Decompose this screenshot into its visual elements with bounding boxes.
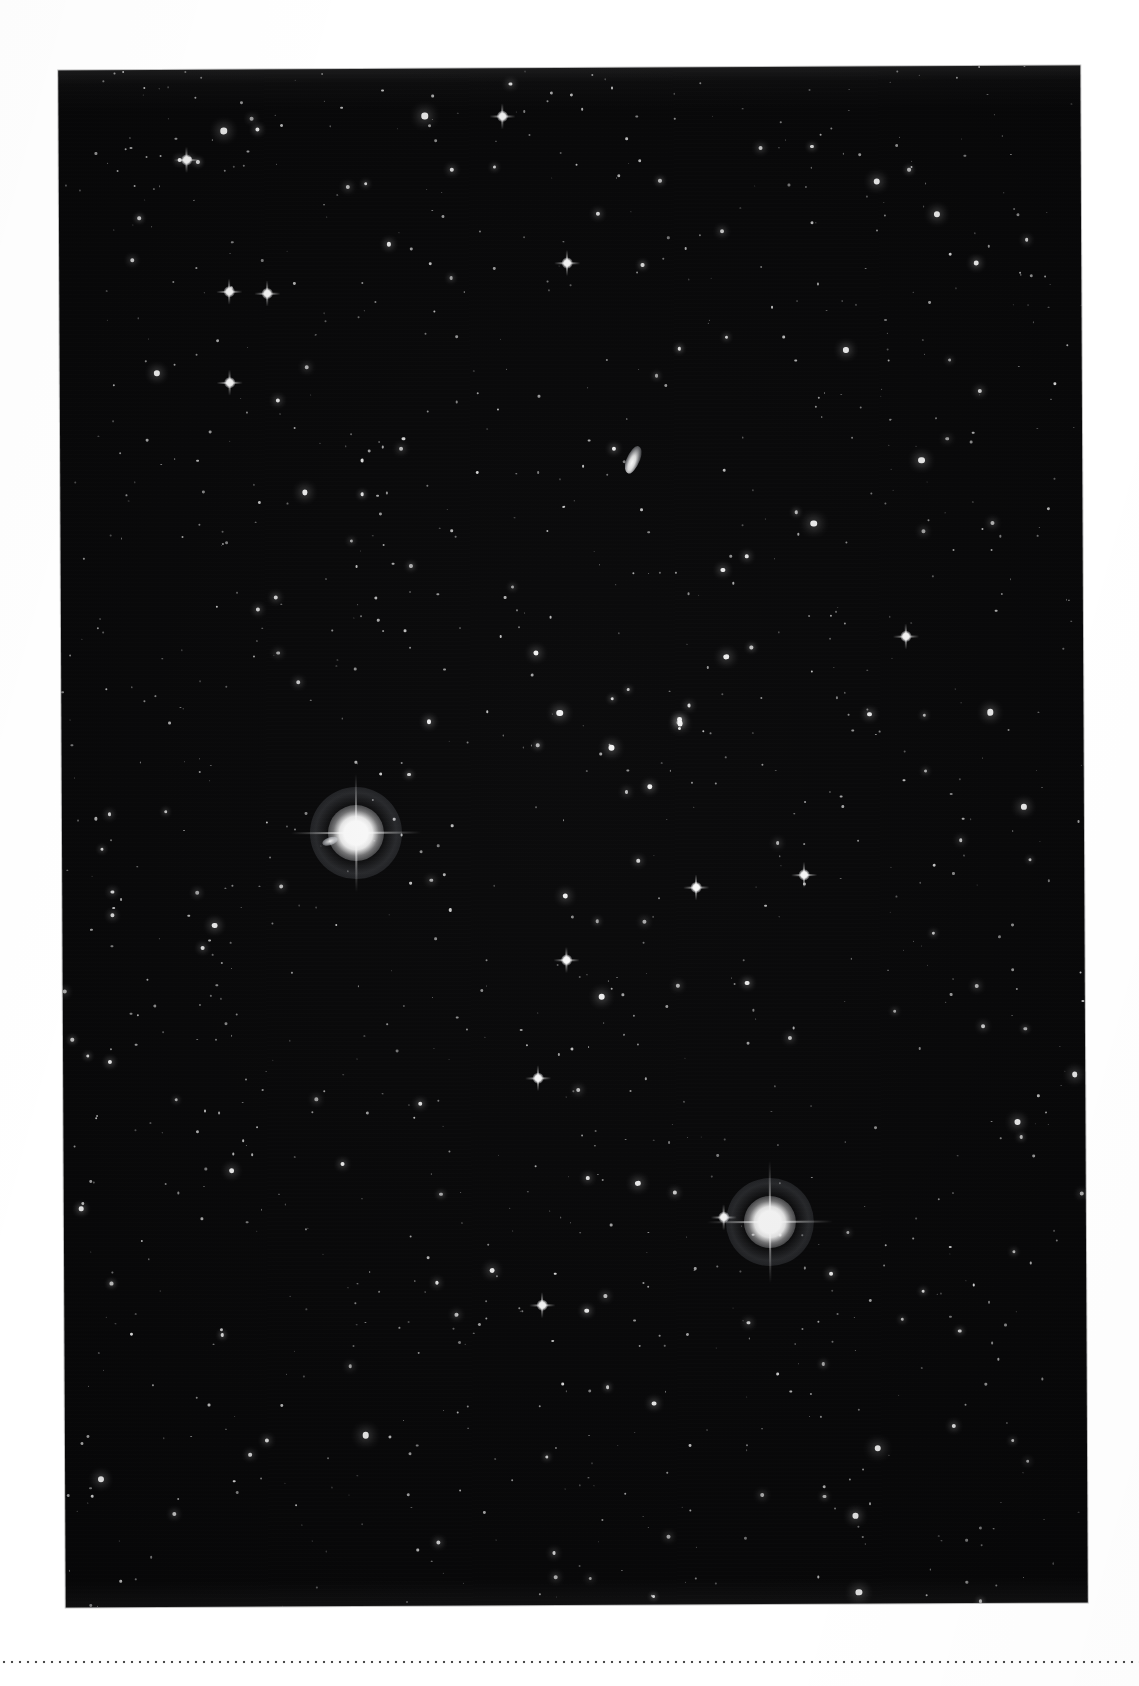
star-point <box>640 508 643 511</box>
star-point <box>606 1385 609 1388</box>
star-point <box>918 1047 921 1050</box>
star-point <box>89 1604 92 1607</box>
star-point <box>855 304 857 306</box>
star-core <box>328 805 384 861</box>
star-point <box>493 267 496 270</box>
star-point <box>261 628 262 629</box>
star-point <box>571 916 574 919</box>
star-point <box>177 1192 180 1195</box>
star-point <box>642 1516 643 1517</box>
star-point <box>284 1482 285 1483</box>
star-point <box>1030 275 1033 278</box>
star-point <box>310 700 311 701</box>
star-point <box>617 174 620 177</box>
star-point <box>443 874 446 877</box>
star-point <box>486 959 488 961</box>
star-point <box>944 512 946 514</box>
star-point <box>745 554 749 558</box>
star-point <box>959 778 961 780</box>
star-point <box>835 611 837 613</box>
star-point <box>616 177 618 179</box>
star-point <box>881 388 882 389</box>
star-point <box>245 1078 247 1080</box>
star-point <box>130 1332 133 1335</box>
star-point <box>196 1397 198 1399</box>
star-point <box>1036 770 1037 771</box>
star-point <box>88 1385 89 1386</box>
star-point <box>451 824 454 827</box>
star-point <box>820 134 822 136</box>
star-point <box>90 1495 93 1498</box>
star-point <box>630 1090 631 1091</box>
star-point <box>98 1352 99 1353</box>
star-point <box>443 669 445 671</box>
star-point <box>1054 478 1056 480</box>
star-point <box>889 912 890 913</box>
star-point <box>332 629 334 631</box>
star-point <box>932 575 934 577</box>
star-point <box>438 1100 440 1102</box>
star-core <box>537 1300 548 1311</box>
star-point <box>605 78 606 79</box>
star-point <box>132 224 133 225</box>
star-point <box>826 310 828 312</box>
star-point <box>389 1435 392 1438</box>
star-point <box>199 1004 201 1006</box>
star-point <box>455 335 458 338</box>
star-point <box>218 1112 221 1115</box>
star-point <box>601 1519 603 1521</box>
star-point <box>628 163 629 164</box>
star-point <box>363 1432 369 1438</box>
star-point <box>379 512 382 515</box>
star-core <box>224 286 235 297</box>
star-point <box>327 1458 329 1460</box>
star-point <box>86 1054 90 1058</box>
star-point <box>1011 1015 1013 1017</box>
star-point <box>1000 1137 1002 1139</box>
star-point <box>357 1283 358 1284</box>
star-point <box>844 692 846 694</box>
star-point <box>761 697 763 699</box>
star-point <box>511 1479 513 1481</box>
star-point <box>720 229 724 233</box>
star-point <box>102 80 104 82</box>
star-point <box>1077 820 1080 823</box>
star-point <box>864 1206 865 1207</box>
star-point <box>232 165 234 167</box>
star-point <box>1033 322 1034 323</box>
star-point <box>91 875 92 876</box>
star-point <box>921 946 922 947</box>
star-point <box>972 1284 975 1287</box>
star-point <box>970 819 972 821</box>
star-point <box>486 985 488 987</box>
star-point <box>377 619 379 621</box>
star-point <box>193 199 195 201</box>
star-point <box>150 1556 153 1559</box>
star-point <box>965 1280 967 1282</box>
star-point <box>1050 398 1052 400</box>
star-point <box>833 667 835 669</box>
star-point <box>952 1424 956 1428</box>
star-point <box>829 637 831 639</box>
star-point <box>181 649 182 650</box>
star-point <box>69 719 71 721</box>
star-point <box>1043 1519 1045 1521</box>
star-point <box>146 979 149 982</box>
star-point <box>599 752 602 755</box>
star-point <box>964 1403 967 1406</box>
star-point <box>954 688 955 689</box>
star-point <box>269 857 271 859</box>
star-point <box>100 848 103 851</box>
star-point <box>1073 427 1074 428</box>
star-point <box>853 1513 859 1519</box>
star-point <box>416 1444 419 1447</box>
star-point <box>558 1053 560 1055</box>
star-point <box>810 670 813 673</box>
star-point <box>1016 988 1018 990</box>
star-point <box>933 211 939 217</box>
star-point <box>360 550 361 551</box>
star-point <box>742 437 743 438</box>
star-point <box>673 1191 677 1195</box>
star-point <box>106 320 107 321</box>
star-point <box>1071 103 1073 105</box>
